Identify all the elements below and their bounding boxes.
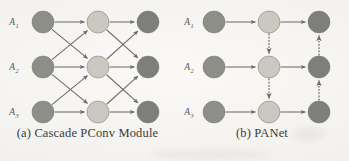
node-middle-column-row1 (258, 11, 280, 33)
row-label-2: A2 (8, 62, 19, 73)
node-middle-column-row2 (87, 56, 109, 78)
panel-b-caption: (b) PANet (175, 126, 349, 141)
row-label-1: A1 (8, 17, 18, 28)
row-label-subscript-1: 1 (191, 22, 194, 29)
edge-solid (107, 76, 138, 104)
node-middle-column-row1 (87, 11, 109, 33)
edge-solid (107, 31, 138, 59)
row-label-2: A2 (183, 62, 194, 73)
node-input-column-row2 (203, 56, 225, 78)
panel-panet: A1A2A3 (b) PANet (175, 0, 349, 161)
node-middle-column-row3 (87, 101, 109, 123)
node-input-column-row3 (203, 101, 225, 123)
panel-b-diagram: A1A2A3 (175, 0, 349, 130)
edge-solid (52, 74, 87, 103)
row-label-3: A3 (8, 107, 18, 118)
node-output-column-row3 (137, 101, 159, 123)
row-label-1: A1 (183, 17, 193, 28)
figure-root: A1A2A3 (a) Cascade PConv Module A1A2A3 (… (0, 0, 349, 161)
node-output-column-row1 (137, 11, 159, 33)
row-label-subscript-3: 3 (190, 112, 194, 119)
edge-solid (107, 30, 138, 58)
edge-solid (52, 29, 87, 58)
node-output-column-row3 (308, 101, 330, 123)
node-input-column-row1 (32, 11, 54, 33)
node-output-column-row2 (137, 56, 159, 78)
panel-a-diagram: A1A2A3 (0, 0, 175, 130)
row-label-subscript-1: 1 (16, 22, 19, 29)
row-label-subscript-2: 2 (16, 67, 20, 74)
row-label-subscript-2: 2 (191, 67, 195, 74)
node-input-column-row2 (32, 56, 54, 78)
edge-solid (52, 76, 87, 105)
node-output-column-row2 (308, 56, 330, 78)
row-label-subscript-3: 3 (15, 112, 19, 119)
node-layer (32, 11, 159, 123)
node-input-column-row3 (32, 101, 54, 123)
node-output-column-row1 (308, 11, 330, 33)
panel-cascade-pconv-module: A1A2A3 (a) Cascade PConv Module (0, 0, 175, 161)
edge-solid (52, 31, 87, 60)
row-label-3: A3 (183, 107, 193, 118)
node-middle-column-row2 (258, 56, 280, 78)
node-input-column-row1 (203, 11, 225, 33)
edge-solid (107, 75, 138, 103)
node-layer (203, 11, 330, 123)
node-middle-column-row3 (258, 101, 280, 123)
panel-a-caption: (a) Cascade PConv Module (0, 126, 175, 141)
